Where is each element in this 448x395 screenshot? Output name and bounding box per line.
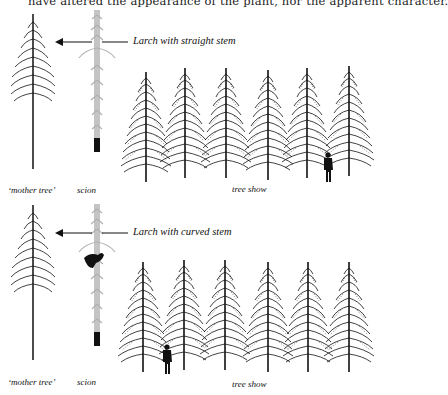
mother-tree-drawing — [11, 205, 55, 360]
label-scion: scion — [77, 185, 96, 195]
person-silhouette — [324, 152, 333, 182]
label-tree-show: tree show — [232, 379, 266, 389]
tree-show-row — [121, 66, 374, 182]
arrow-icon — [55, 229, 128, 237]
person-silhouette — [163, 344, 172, 374]
scion-drawing — [79, 204, 115, 346]
label-tree-show: tree show — [232, 184, 266, 194]
caption-curved-stem: Larch with curved stem — [133, 226, 231, 237]
caption-straight-stem: Larch with straight stem — [133, 35, 236, 46]
tree-show-row — [118, 260, 374, 374]
label-mother-tree: ‘mother tree’ — [8, 185, 55, 195]
scion-drawing — [79, 10, 115, 152]
bird-silhouette — [84, 253, 104, 268]
label-scion: scion — [77, 377, 96, 387]
label-mother-tree: ‘mother tree’ — [8, 377, 55, 387]
mother-tree-drawing — [11, 14, 55, 169]
